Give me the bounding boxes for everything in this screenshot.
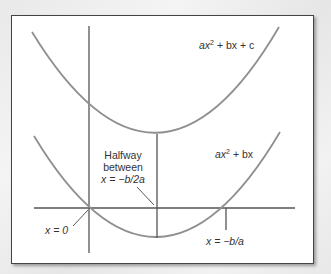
root-label: x = −b/a xyxy=(205,235,244,247)
origin-leader xyxy=(73,210,88,226)
origin-label: x = 0 xyxy=(44,224,68,236)
halfway-label-line3: x = −b/2a xyxy=(100,173,145,185)
halfway-leader xyxy=(137,187,154,205)
halfway-label-line1: Halfway xyxy=(104,149,142,161)
quadratic-diagram: ax2 + bx + c ax2 + bx Halfway between x … xyxy=(0,0,331,274)
halfway-label-line2: between xyxy=(103,161,143,173)
lower-curve-label: ax2 + bx xyxy=(215,148,254,160)
upper-curve-label: ax2 + bx + c xyxy=(199,39,254,51)
